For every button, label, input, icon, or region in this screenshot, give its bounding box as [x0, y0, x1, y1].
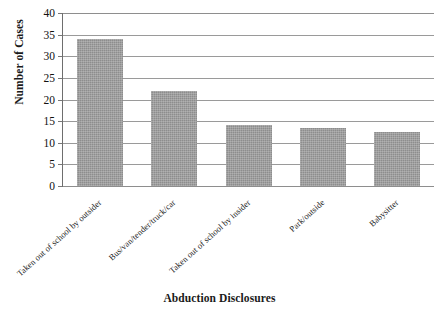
- bar-series: [63, 13, 434, 186]
- y-tick-label: 0: [49, 180, 55, 192]
- y-axis-ticks: 0510152025303540: [0, 0, 63, 187]
- y-tick-label: 30: [44, 50, 56, 62]
- y-tick-label: 15: [44, 115, 56, 127]
- y-tick-label: 40: [44, 7, 56, 19]
- bar: [374, 132, 420, 186]
- x-axis-title: Abduction Disclosures: [0, 292, 439, 304]
- y-tick-label: 25: [44, 72, 56, 84]
- plot-area: [63, 13, 434, 186]
- bar: [226, 125, 272, 186]
- y-tick-label: 35: [44, 29, 56, 41]
- bar-chart: Number of Cases 0510152025303540 Taken o…: [0, 0, 439, 314]
- gridline: [63, 186, 434, 187]
- bar: [77, 39, 123, 186]
- bar: [300, 128, 346, 186]
- y-tick-label: 5: [49, 158, 55, 170]
- bar: [151, 91, 197, 186]
- y-tick-label: 20: [44, 94, 56, 106]
- y-tick-label: 10: [44, 137, 56, 149]
